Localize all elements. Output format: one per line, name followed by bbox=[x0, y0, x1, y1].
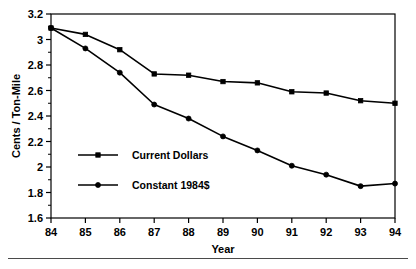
y-tick-label: 1.6 bbox=[28, 212, 43, 224]
y-tick-label: 2.2 bbox=[28, 136, 43, 148]
data-point-circle bbox=[83, 46, 88, 51]
data-point-circle bbox=[152, 102, 157, 107]
data-point-square bbox=[118, 48, 122, 52]
data-point-square bbox=[152, 72, 156, 76]
data-point-circle bbox=[324, 172, 329, 177]
x-tick-label: 93 bbox=[354, 226, 366, 238]
plot-area-border bbox=[51, 14, 395, 218]
data-point-square bbox=[324, 91, 328, 95]
data-point-circle bbox=[96, 183, 101, 188]
y-tick-label: 3 bbox=[37, 34, 43, 46]
x-axis-ticks: 8485868788899091929394 bbox=[45, 218, 402, 238]
chart-figure: 1.61.822.22.42.62.833.2 8485868788899091… bbox=[0, 0, 416, 269]
x-tick-label: 88 bbox=[182, 226, 194, 238]
x-tick-label: 92 bbox=[320, 226, 332, 238]
x-axis-title: Year bbox=[211, 243, 235, 255]
y-axis-title: Cents / Ton-Mile bbox=[10, 74, 22, 158]
y-tick-label: 2.8 bbox=[28, 59, 43, 71]
line-chart: 1.61.822.22.42.62.833.2 8485868788899091… bbox=[0, 0, 416, 269]
data-point-square bbox=[221, 79, 225, 83]
y-tick-label: 2.4 bbox=[28, 110, 44, 122]
data-point-circle bbox=[221, 134, 226, 139]
legend-label: Current Dollars bbox=[132, 149, 209, 161]
y-tick-label: 3.2 bbox=[28, 8, 43, 20]
legend-label: Constant 1984$ bbox=[132, 179, 210, 191]
y-axis-ticks: 1.61.822.22.42.62.833.2 bbox=[28, 8, 51, 224]
data-point-square bbox=[358, 99, 362, 103]
data-point-circle bbox=[289, 163, 294, 168]
footer-divider-rule bbox=[8, 258, 408, 259]
data-point-circle bbox=[358, 184, 363, 189]
data-point-square bbox=[96, 153, 100, 157]
x-tick-label: 86 bbox=[114, 226, 126, 238]
y-tick-label: 1.8 bbox=[28, 187, 43, 199]
y-tick-label: 2.6 bbox=[28, 85, 43, 97]
data-point-square bbox=[255, 81, 259, 85]
data-point-circle bbox=[393, 181, 398, 186]
data-point-square bbox=[290, 90, 294, 94]
x-tick-label: 90 bbox=[251, 226, 263, 238]
data-point-circle bbox=[117, 70, 122, 75]
data-point-square bbox=[393, 101, 397, 105]
data-point-square bbox=[186, 73, 190, 77]
y-tick-label: 2 bbox=[37, 161, 43, 173]
data-point-circle bbox=[186, 116, 191, 121]
x-tick-label: 91 bbox=[286, 226, 298, 238]
data-point-square bbox=[83, 32, 87, 36]
x-tick-label: 84 bbox=[45, 226, 58, 238]
x-tick-label: 87 bbox=[148, 226, 160, 238]
data-point-circle bbox=[49, 26, 54, 31]
x-tick-label: 94 bbox=[389, 226, 402, 238]
x-tick-label: 89 bbox=[217, 226, 229, 238]
x-tick-label: 85 bbox=[79, 226, 91, 238]
data-point-circle bbox=[255, 148, 260, 153]
